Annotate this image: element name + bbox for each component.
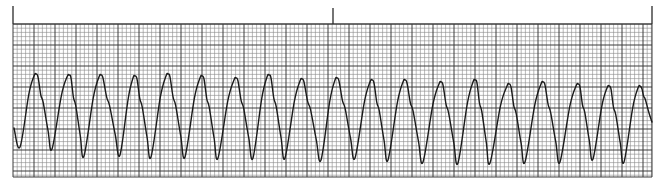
ecg-chart [0,0,664,184]
